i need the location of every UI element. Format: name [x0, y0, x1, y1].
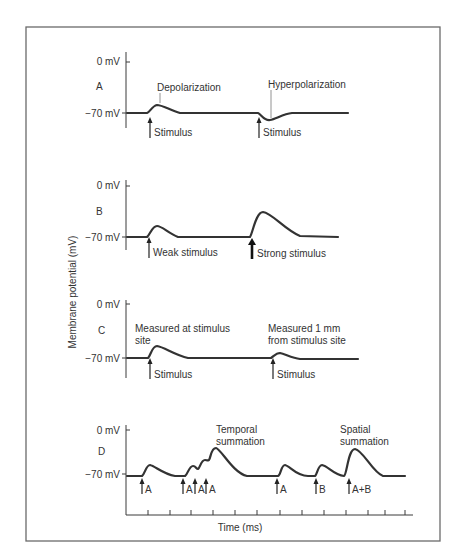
panel-a: 0 mV −70 mV A Depolarization Hyperpolari…: [85, 52, 348, 138]
rest-mv-label: −70 mV: [85, 108, 120, 119]
arrow-head-icon: [204, 478, 209, 484]
arrow-head-icon: [140, 478, 145, 484]
arrow-head-icon: [248, 238, 256, 245]
stimulus-label: Stimulus: [154, 127, 192, 138]
panel-label: A: [96, 81, 103, 92]
zero-mv-label: 0 mV: [97, 425, 121, 436]
zero-mv-label: 0 mV: [97, 180, 121, 191]
temporal-summation-label-line2: summation: [216, 436, 265, 447]
stimulus-label: B: [319, 484, 326, 495]
arrow-head-icon: [275, 478, 280, 484]
panel-b: 0 mV −70 mV B Weak stimulus Strong stimu…: [85, 180, 338, 259]
weak-stimulus-label: Weak stimulus: [153, 247, 218, 258]
stimulus-label: A+B: [352, 484, 372, 495]
arrow-head-icon: [193, 478, 198, 484]
hyperpolarization-label: Hyperpolarization: [268, 79, 346, 90]
measured-at-site-label-line2: site: [135, 335, 151, 346]
arrow-head-icon: [257, 117, 262, 123]
stimulus-arrow-b: B: [314, 478, 327, 495]
stimulus-arrow-a5: A: [275, 478, 288, 495]
zero-mv-label: 0 mV: [97, 299, 121, 310]
stimulus-label: A: [145, 484, 152, 495]
panel-label: C: [98, 325, 105, 336]
stimulus-arrow-ab: A+B: [347, 478, 372, 495]
trace-c: [127, 346, 358, 359]
trace-d: [127, 448, 405, 476]
measured-1mm-label-line1: Measured 1 mm: [268, 323, 340, 334]
trace-a: [127, 105, 348, 120]
stimulus-label: A: [209, 484, 216, 495]
stimulus-label: A: [186, 484, 193, 495]
arrow-head-icon: [314, 478, 319, 484]
temporal-summation-label-line1: Temporal: [216, 424, 257, 435]
stimulus-label: A: [198, 484, 205, 495]
stimulus-arrow-a2: A: [181, 478, 194, 495]
spatial-summation-label-line2: summation: [340, 436, 389, 447]
arrow-head-icon: [347, 478, 352, 484]
panel-label: D: [98, 446, 105, 457]
trace-b: [127, 212, 338, 237]
rest-mv-label: −70 mV: [85, 469, 120, 480]
time-axis-ticks: [148, 510, 405, 515]
stimulus-label: Stimulus: [263, 127, 301, 138]
figure-frame: [26, 27, 440, 541]
panel-label: B: [96, 206, 103, 217]
strong-stimulus-label: Strong stimulus: [257, 248, 326, 259]
zero-mv-label: 0 mV: [97, 56, 121, 67]
stimulus-arrow-a1: A: [140, 478, 153, 495]
panel-d: 0 mV −70 mV D Temporal summation Spatial…: [85, 424, 413, 533]
arrow-head-icon: [148, 117, 153, 123]
stimulus-arrow-a4: A: [204, 478, 217, 495]
stimulus-label: Stimulus: [277, 369, 315, 380]
rest-mv-label: −70 mV: [85, 232, 120, 243]
spatial-summation-label-line1: Spatial: [340, 424, 371, 435]
stimulus-label: A: [280, 484, 287, 495]
y-axis-label: Membrane potential (mV): [67, 236, 78, 349]
stimulus-arrow-a3: A: [193, 478, 206, 495]
panel-c: 0 mV −70 mV C Measured at stimulus site …: [85, 299, 358, 380]
measured-at-site-label-line1: Measured at stimulus: [135, 323, 230, 334]
stimulus-label: Stimulus: [154, 369, 192, 380]
membrane-potential-figure: Membrane potential (mV) 0 mV −70 mV A De…: [0, 0, 461, 560]
depolarization-label: Depolarization: [157, 82, 221, 93]
arrow-head-icon: [181, 478, 186, 484]
measured-1mm-label-line2: from stimulus site: [268, 335, 346, 346]
rest-mv-label: −70 mV: [85, 353, 120, 364]
x-axis-label: Time (ms): [218, 522, 263, 533]
